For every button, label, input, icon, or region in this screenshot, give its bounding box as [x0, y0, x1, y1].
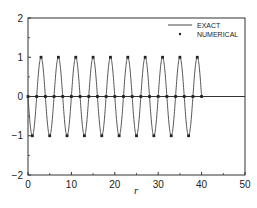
numerical-point: [135, 134, 138, 137]
numerical-point: [118, 134, 121, 137]
numerical-point: [83, 134, 86, 137]
numerical-point: [152, 134, 155, 137]
chart: −2−101201020304050 EXACT NUMERICAL r: [0, 0, 257, 208]
numerical-point: [35, 95, 38, 98]
y-tick-label: −1: [12, 130, 24, 141]
numerical-point: [61, 95, 64, 98]
axes: −2−101201020304050: [12, 13, 251, 191]
numerical-point: [66, 134, 69, 137]
legend: EXACT NUMERICAL: [168, 22, 238, 38]
numerical-point: [192, 95, 195, 98]
numerical-point: [165, 95, 168, 98]
numerical-point: [187, 134, 190, 137]
numerical-point: [92, 56, 95, 59]
x-axis-label: r: [134, 184, 139, 196]
y-tick-label: −2: [12, 170, 24, 181]
numerical-point: [87, 95, 90, 98]
numerical-point: [157, 95, 160, 98]
x-tick-label: 30: [153, 179, 165, 190]
y-tick-label: 0: [17, 91, 23, 102]
numerical-point: [183, 95, 186, 98]
numerical-point: [74, 56, 77, 59]
numerical-point: [48, 134, 51, 137]
numerical-point: [139, 95, 142, 98]
numerical-point: [126, 56, 129, 59]
y-tick-label: 2: [17, 13, 23, 24]
numerical-point: [170, 134, 173, 137]
numerical-point: [113, 95, 116, 98]
numerical-point: [122, 95, 125, 98]
numerical-point: [179, 56, 182, 59]
legend-label-numerical: NUMERICAL: [197, 31, 238, 38]
legend-label-exact: EXACT: [197, 22, 221, 29]
numerical-point: [200, 95, 203, 98]
legend-marker-icon: [179, 33, 181, 35]
x-tick-label: 40: [196, 179, 208, 190]
x-tick-label: 0: [25, 179, 31, 190]
series-numerical-markers: [27, 56, 203, 137]
numerical-point: [53, 95, 56, 98]
numerical-point: [131, 95, 134, 98]
numerical-point: [100, 134, 103, 137]
numerical-point: [148, 95, 151, 98]
numerical-point: [27, 95, 30, 98]
numerical-point: [161, 56, 164, 59]
numerical-point: [44, 95, 47, 98]
numerical-point: [57, 56, 60, 59]
numerical-point: [79, 95, 82, 98]
numerical-point: [96, 95, 99, 98]
x-tick-label: 20: [109, 179, 121, 190]
numerical-point: [105, 95, 108, 98]
numerical-point: [109, 56, 112, 59]
numerical-point: [70, 95, 73, 98]
numerical-point: [31, 134, 34, 137]
numerical-point: [174, 95, 177, 98]
y-tick-label: 1: [17, 52, 23, 63]
numerical-point: [196, 56, 199, 59]
numerical-point: [40, 56, 43, 59]
x-tick-label: 10: [66, 179, 78, 190]
numerical-point: [144, 56, 147, 59]
x-tick-label: 50: [239, 179, 251, 190]
